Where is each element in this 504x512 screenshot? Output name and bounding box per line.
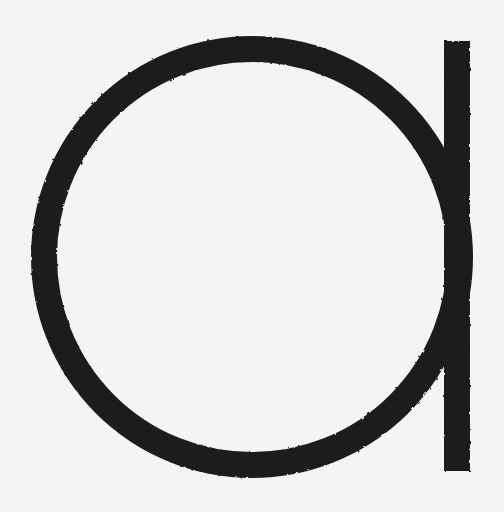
- logo-canvas: [0, 0, 504, 512]
- logo-stem: [444, 41, 470, 471]
- scan-grain-overlay: [0, 0, 504, 512]
- lowercase-a-logomark: [0, 0, 504, 512]
